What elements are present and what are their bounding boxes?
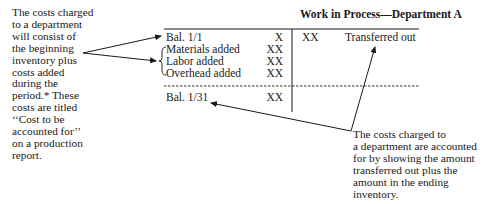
diagram-lines: [0, 0, 496, 204]
arrow-icon: [83, 53, 156, 61]
brace-icon: [159, 47, 166, 75]
arrow-icon: [351, 47, 375, 131]
arrow-icon: [83, 36, 161, 53]
arrow-icon: [211, 103, 351, 131]
